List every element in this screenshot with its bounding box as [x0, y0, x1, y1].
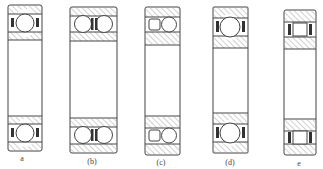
bearing-d — [213, 7, 248, 153]
bearing-a — [8, 5, 42, 151]
bearing-diagram — [0, 0, 323, 169]
bearing-e — [284, 10, 316, 155]
label-e: e — [297, 159, 301, 168]
label-d: (d) — [225, 158, 234, 167]
bearing-b — [70, 7, 117, 153]
bearing-c — [145, 7, 180, 155]
label-c: (c) — [157, 158, 166, 167]
label-a: a — [20, 154, 24, 163]
label-b: (b) — [87, 157, 96, 166]
